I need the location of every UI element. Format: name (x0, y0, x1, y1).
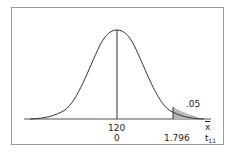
center-xbar-tick: 120 (108, 123, 125, 133)
critical-t-tick: 1.796 (164, 133, 190, 143)
center-t-tick: 0 (114, 133, 120, 143)
t-axis-subscript: 11 (209, 137, 217, 144)
density-plot (0, 0, 240, 167)
tail-area-label: .05 (186, 99, 200, 109)
xbar-axis-label: x (205, 122, 210, 132)
t-axis-label: t11 (205, 133, 216, 146)
